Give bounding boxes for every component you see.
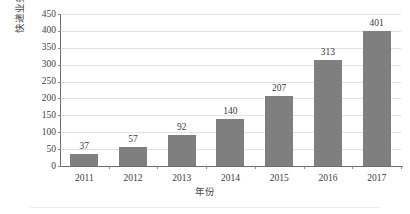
- y-axis-tick-mark: [58, 132, 61, 133]
- bar-chart-figure: 快递业务量(亿件) 050100150200250300350400450 37…: [0, 0, 410, 214]
- x-axis-tick-mark: [109, 166, 110, 169]
- y-axis-tick-label: 150: [28, 110, 56, 121]
- y-axis-tick-mark: [58, 48, 61, 49]
- bar-slot: 140: [206, 14, 255, 166]
- y-axis-tick-mark: [58, 31, 61, 32]
- y-axis-tick-mark: [58, 115, 61, 116]
- y-axis-tick-label: 350: [28, 42, 56, 53]
- x-axis-tick-label: 2016: [308, 172, 348, 184]
- x-axis-tick-mark: [352, 166, 353, 169]
- bar[interactable]: [363, 31, 391, 166]
- x-axis-tick-label: 2013: [162, 172, 202, 184]
- bar-slot: 37: [60, 14, 109, 166]
- x-axis-tick-mark: [206, 166, 207, 169]
- bar-slot: 207: [255, 14, 304, 166]
- y-axis-tick-mark: [58, 98, 61, 99]
- bar-value-label: 92: [177, 122, 187, 133]
- bar-value-label: 401: [370, 18, 384, 29]
- x-axis-title: 年份: [0, 186, 410, 198]
- x-axis-tick-label: 2014: [211, 172, 251, 184]
- x-axis-tick-label: 2017: [357, 172, 397, 184]
- bar-value-label: 140: [223, 106, 237, 117]
- y-axis-tick-mark: [58, 14, 61, 15]
- bar-slot: 401: [352, 14, 401, 166]
- y-axis-tick-label: 400: [28, 25, 56, 36]
- y-axis-title: 快递业务量(亿件): [13, 0, 27, 52]
- bar-value-label: 207: [272, 83, 286, 94]
- bar[interactable]: [265, 96, 293, 166]
- x-axis-tick-mark: [157, 166, 158, 169]
- y-axis-tick-label: 200: [28, 93, 56, 104]
- bottom-rule: [30, 207, 380, 208]
- bar-value-label: 57: [128, 134, 138, 145]
- x-axis-tick-label: 2011: [64, 172, 104, 184]
- bar[interactable]: [216, 119, 244, 166]
- y-axis-tick-label: 0: [28, 161, 56, 172]
- x-axis-tick-mark: [255, 166, 256, 169]
- y-axis-tick-mark: [58, 82, 61, 83]
- bar-value-label: 313: [321, 47, 335, 58]
- y-axis-tick-mark: [58, 149, 61, 150]
- bar-slot: 92: [157, 14, 206, 166]
- bar[interactable]: [314, 60, 342, 166]
- y-axis-tick-mark: [58, 65, 61, 66]
- x-axis-tick-mark: [304, 166, 305, 169]
- x-axis-tick-mark: [401, 166, 402, 169]
- bar-series: 375792140207313401: [60, 14, 401, 166]
- bar-slot: 313: [304, 14, 353, 166]
- x-axis-tick-label: 2015: [259, 172, 299, 184]
- y-axis-tick-label: 250: [28, 76, 56, 87]
- y-axis-tick-label: 300: [28, 59, 56, 70]
- bar-value-label: 37: [80, 141, 90, 152]
- y-axis-tick-labels: 050100150200250300350400450: [28, 14, 56, 166]
- bar[interactable]: [119, 147, 147, 166]
- bar-slot: 57: [109, 14, 158, 166]
- plot-area: 375792140207313401: [60, 14, 401, 166]
- bar[interactable]: [70, 154, 98, 166]
- y-axis-tick-label: 50: [28, 144, 56, 155]
- y-axis-tick-label: 100: [28, 127, 56, 138]
- x-axis-tick-label: 2012: [113, 172, 153, 184]
- bar[interactable]: [168, 135, 196, 166]
- y-axis-tick-label: 450: [28, 9, 56, 20]
- y-axis-tick-mark: [58, 166, 61, 167]
